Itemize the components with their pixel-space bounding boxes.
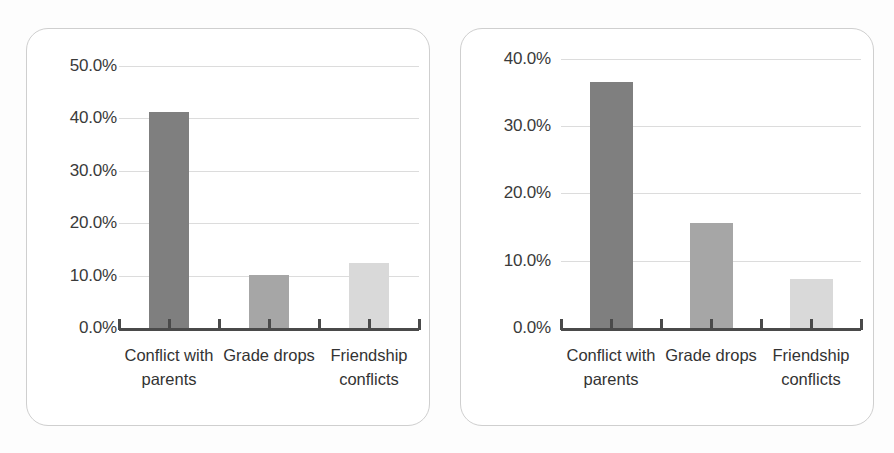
- x-axis-tick: [610, 319, 613, 330]
- y-tick-label: 40.0%: [70, 108, 117, 128]
- x-axis-tick: [168, 319, 171, 330]
- figure-root: 50.0%40.0%30.0%20.0%10.0%0.0% Conflict w…: [0, 0, 894, 453]
- y-tick-label: 50.0%: [70, 56, 117, 76]
- bar: [149, 112, 189, 328]
- y-tick-label: 10.0%: [70, 266, 117, 286]
- x-axis-tick: [560, 319, 563, 330]
- y-tick-label: 0.0%: [79, 318, 117, 338]
- x-axis-tick: [268, 319, 271, 330]
- y-tick-label: 40.0%: [504, 49, 551, 69]
- chart-panel-left: 50.0%40.0%30.0%20.0%10.0%0.0% Conflict w…: [26, 28, 430, 426]
- bar: [690, 223, 733, 328]
- y-axis-tick-labels-left: 50.0%40.0%30.0%20.0%10.0%0.0%: [39, 29, 117, 425]
- gridline: [119, 66, 419, 67]
- x-axis-tick: [660, 319, 663, 330]
- x-axis-tick: [760, 319, 763, 330]
- y-tick-label: 10.0%: [504, 251, 551, 271]
- gridline: [561, 59, 861, 60]
- plot-area-right: 40.0%30.0%20.0%10.0%0.0% Conflict with p…: [461, 29, 873, 425]
- x-axis-tick: [318, 319, 321, 330]
- x-axis-tick: [810, 319, 813, 330]
- x-axis-tick: [368, 319, 371, 330]
- x-axis-tick: [418, 319, 421, 330]
- category-label: Friendship conflicts: [310, 344, 428, 392]
- bar: [590, 82, 633, 328]
- x-axis-tick: [218, 319, 221, 330]
- y-tick-label: 0.0%: [513, 318, 551, 338]
- chart-panel-right: 40.0%30.0%20.0%10.0%0.0% Conflict with p…: [460, 28, 874, 426]
- y-tick-label: 20.0%: [70, 213, 117, 233]
- y-tick-label: 20.0%: [504, 183, 551, 203]
- x-axis-tick: [710, 319, 713, 330]
- plot-area-left: 50.0%40.0%30.0%20.0%10.0%0.0% Conflict w…: [27, 29, 429, 425]
- category-label: Friendship conflicts: [752, 344, 870, 392]
- x-axis-tick: [860, 319, 863, 330]
- x-axis-tick: [118, 319, 121, 330]
- y-tick-label: 30.0%: [504, 116, 551, 136]
- y-tick-label: 30.0%: [70, 161, 117, 181]
- y-axis-tick-labels-right: 40.0%30.0%20.0%10.0%0.0%: [473, 29, 551, 425]
